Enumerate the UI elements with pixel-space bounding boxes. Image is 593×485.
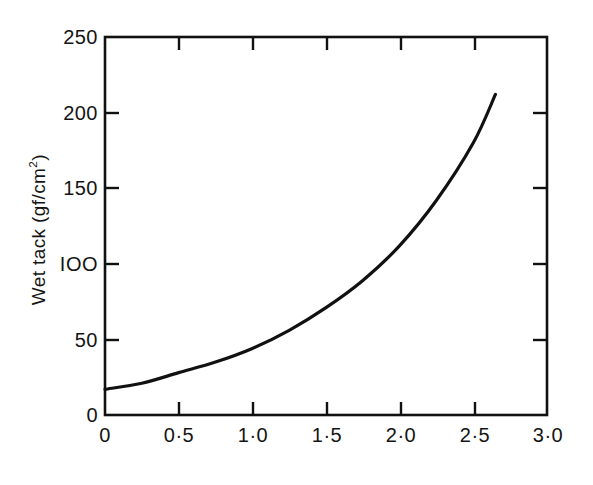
data-series-group <box>105 94 495 389</box>
data-series-wet-tack <box>105 94 495 389</box>
tick-marks <box>105 37 547 415</box>
plot-area <box>0 0 593 485</box>
axes-frame-rect <box>105 37 547 415</box>
figure: Wet tack (gf/cm2) 250 200 150 IOO 50 0 0… <box>0 0 593 485</box>
axes-frame <box>105 37 547 415</box>
